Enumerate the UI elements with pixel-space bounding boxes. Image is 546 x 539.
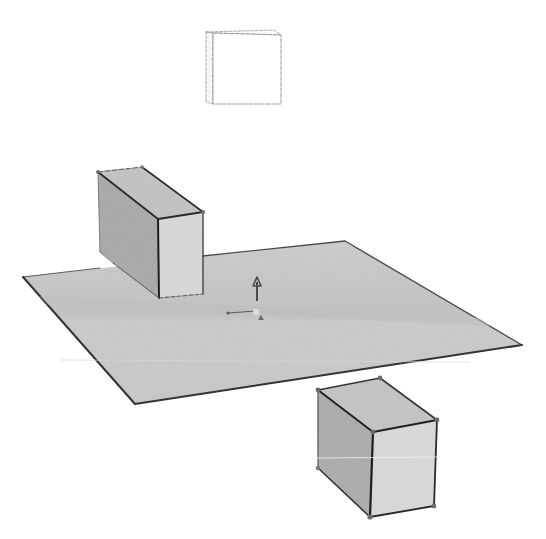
scene-canvas[interactable] (0, 0, 546, 539)
3d-viewport[interactable] (0, 0, 546, 539)
gizmo-x-endpoint (227, 312, 230, 315)
gizmo-origin (253, 309, 259, 315)
vertex-handle[interactable] (432, 504, 437, 509)
vertex-handle[interactable] (435, 418, 440, 423)
box-lower-right-front-face (370, 420, 437, 517)
vertex-handle[interactable] (201, 210, 205, 214)
vertex-handle[interactable] (316, 466, 320, 470)
vertex-handle[interactable] (367, 514, 372, 519)
box-upper-left-front-face-lower (158, 212, 203, 298)
ghost-square-side (206, 32, 213, 104)
vertex-handle[interactable] (378, 376, 383, 381)
vertex-handle[interactable] (140, 165, 144, 169)
vertex-handle[interactable] (96, 170, 100, 174)
box-lower-right[interactable] (318, 378, 437, 517)
ghost-square[interactable] (206, 30, 281, 104)
vertex-handle[interactable] (371, 430, 376, 435)
ghost-square-front (213, 33, 281, 104)
vertex-handle[interactable] (316, 388, 321, 393)
